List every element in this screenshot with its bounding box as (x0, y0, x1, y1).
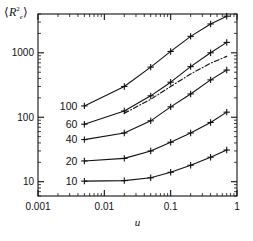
curve-label-100: 100 (60, 100, 78, 112)
y-axis-label-close: ⟩ (23, 5, 28, 19)
series-line-40 (84, 70, 226, 140)
data-point-marker (147, 148, 153, 154)
data-point-marker (167, 104, 173, 110)
data-point-marker (167, 139, 173, 145)
data-point-marker (81, 178, 87, 184)
data-point-marker (207, 154, 213, 160)
data-point-marker (81, 158, 87, 164)
curve-label-20: 20 (66, 155, 78, 167)
y-tick-label: 10 (23, 176, 35, 187)
curve-label-10: 10 (66, 175, 78, 187)
data-point-marker (224, 147, 230, 153)
data-point-marker (187, 162, 193, 168)
series-line-reference (124, 56, 226, 113)
data-point-marker (187, 130, 193, 136)
data-point-marker (81, 121, 87, 127)
data-point-marker (81, 136, 87, 142)
y-tick-label: 100 (17, 112, 34, 123)
data-point-marker (167, 169, 173, 175)
data-point-marker (147, 175, 153, 181)
curve-label-60: 60 (66, 118, 78, 130)
x-tick-label: 0.1 (164, 201, 178, 212)
figure-container: ⟨R2e⟩ 0.0010.010.11101001000u10060402010 (0, 0, 253, 241)
x-tick-label: 1 (234, 201, 240, 212)
plot-svg: 0.0010.010.11101001000u10060402010 (0, 0, 253, 241)
data-point-marker (224, 109, 230, 115)
x-tick-label: 0.001 (25, 201, 50, 212)
data-point-marker (121, 177, 127, 183)
y-tick-label: 1000 (12, 47, 35, 58)
series-line-10 (84, 150, 226, 181)
data-point-marker (81, 103, 87, 109)
data-point-marker (224, 39, 230, 45)
data-point-marker (121, 130, 127, 136)
data-point-marker (207, 21, 213, 27)
data-point-marker (207, 50, 213, 56)
data-point-marker (207, 119, 213, 125)
data-point-marker (147, 118, 153, 124)
curve-label-40: 40 (66, 133, 78, 145)
data-point-marker (224, 67, 230, 73)
y-axis-label: ⟨R2e⟩ (4, 6, 28, 21)
x-tick-label: 0.01 (95, 201, 115, 212)
x-axis-title: u (135, 216, 141, 228)
y-axis-label-exponent: 2 (16, 5, 20, 13)
data-point-marker (121, 155, 127, 161)
